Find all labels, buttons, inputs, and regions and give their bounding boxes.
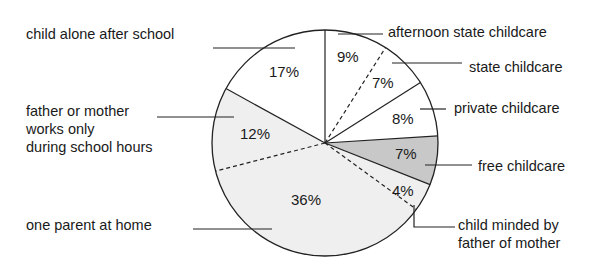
label-father-mother-1: father or mother <box>26 103 129 119</box>
label-father-mother-2: works only <box>25 121 95 137</box>
label-free: free childcare <box>478 158 565 174</box>
pct-afternoon-state: 9% <box>337 48 359 65</box>
leader-minded <box>414 205 455 227</box>
pct-father-mother: 12% <box>240 125 270 142</box>
pct-minded: 4% <box>392 182 414 199</box>
label-minded-2: father of mother <box>458 235 561 251</box>
label-private: private childcare <box>454 100 560 116</box>
label-one-parent: one parent at home <box>26 217 152 233</box>
label-child-alone: child alone after school <box>26 26 174 42</box>
pct-one-parent: 36% <box>291 191 321 208</box>
pie-chart: 9% 7% 8% 7% 4% 36% 12% 17% child alone a… <box>0 0 605 267</box>
label-minded-1: child minded by <box>458 217 559 233</box>
pct-private: 8% <box>392 110 414 127</box>
label-state: state childcare <box>469 59 563 75</box>
pct-child-alone: 17% <box>269 63 299 80</box>
label-father-mother-3: during school hours <box>26 139 153 155</box>
label-afternoon-state: afternoon state childcare <box>388 24 547 40</box>
pct-state: 7% <box>372 74 394 91</box>
pct-free: 7% <box>395 145 417 162</box>
